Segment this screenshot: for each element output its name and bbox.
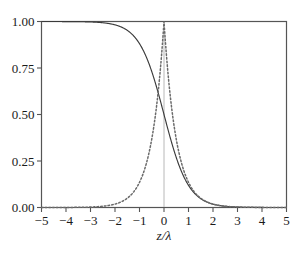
- x-tick-label: −5: [35, 213, 49, 228]
- x-tick-label: 4: [259, 213, 266, 228]
- x-tick-label: 1: [185, 213, 192, 228]
- x-axis-ticks: [42, 208, 287, 213]
- x-tick-label: −2: [108, 213, 122, 228]
- plot-svg: −5−4−3−2−1012345 0.000.250.500.751.00 z/…: [0, 0, 301, 256]
- y-tick-label: 0.00: [12, 200, 35, 215]
- x-axis-title: z/λ: [156, 228, 172, 243]
- y-tick-label: 0.50: [12, 107, 35, 122]
- y-tick-label: 0.75: [12, 61, 35, 76]
- x-tick-label: −4: [59, 213, 73, 228]
- x-tick-label: −3: [84, 213, 98, 228]
- x-tick-label: 0: [161, 213, 168, 228]
- x-tick-label: 3: [234, 213, 241, 228]
- y-tick-label: 1.00: [12, 14, 35, 29]
- x-axis-tick-labels: −5−4−3−2−1012345: [35, 213, 290, 228]
- figure-container: −5−4−3−2−1012345 0.000.250.500.751.00 z/…: [0, 0, 301, 256]
- x-tick-label: 2: [210, 213, 217, 228]
- x-tick-label: −1: [133, 213, 147, 228]
- y-axis-tick-labels: 0.000.250.500.751.00: [12, 14, 35, 215]
- y-tick-label: 0.25: [12, 154, 35, 169]
- y-axis-ticks: [37, 22, 42, 208]
- x-tick-label: 5: [283, 213, 290, 228]
